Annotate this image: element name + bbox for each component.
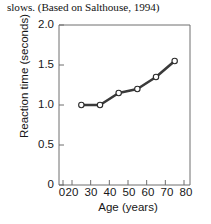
data-point bbox=[116, 90, 121, 95]
y-tick-label-0-5: 0.5 bbox=[26, 138, 54, 150]
x-axis-label: Age (years) bbox=[58, 201, 198, 213]
y-tick-label-1-5: 1.5 bbox=[26, 58, 54, 70]
x-tick-label-30: 30 bbox=[81, 186, 101, 198]
data-point bbox=[172, 58, 177, 63]
x-tick-label-50: 50 bbox=[119, 186, 139, 198]
data-point bbox=[153, 74, 158, 79]
data-point bbox=[97, 102, 102, 107]
x-tick-label-80: 80 bbox=[176, 186, 196, 198]
x-tick-label-70: 70 bbox=[157, 186, 177, 198]
plot-area: Reaction time (seconds) Age (years) 2.0 … bbox=[0, 16, 211, 224]
data-series bbox=[79, 58, 178, 107]
data-point bbox=[79, 102, 84, 107]
x-tick-label-60: 60 bbox=[138, 186, 158, 198]
y-tick-label-2-0: 2.0 bbox=[26, 18, 54, 30]
y-tick-label-0: 0 bbox=[26, 178, 54, 190]
figure-caption: slows. (Based on Salthouse, 1994) bbox=[7, 0, 211, 14]
data-point bbox=[135, 86, 140, 91]
x-tick-label-20: 20 bbox=[62, 186, 82, 198]
figure: slows. (Based on Salthouse, 1994) Reacti… bbox=[0, 0, 211, 224]
series-line-0 bbox=[81, 61, 174, 105]
x-tick-label-40: 40 bbox=[100, 186, 120, 198]
y-tick-label-1-0: 1.0 bbox=[26, 98, 54, 110]
axis-ticks bbox=[59, 25, 184, 185]
